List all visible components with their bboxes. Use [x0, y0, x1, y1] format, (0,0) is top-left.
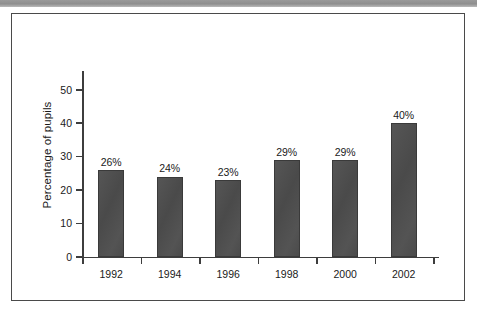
y-axis-tick-50: [76, 89, 83, 91]
x-axis-tick-1: [141, 258, 143, 264]
bar-value-label-1996: 23%: [198, 166, 258, 178]
bar-1996: [215, 180, 241, 257]
x-axis-label-1992: 1992: [81, 268, 141, 280]
y-axis-tick-40: [76, 122, 83, 124]
x-axis-tick-6: [433, 258, 435, 264]
bar-2000: [332, 160, 358, 257]
y-axis-tick-label-20: 20: [40, 184, 72, 196]
figure-frame: Percentage of pupils 0 10 20 30 40 50 26…: [11, 13, 465, 301]
x-axis-label-1994: 1994: [140, 268, 200, 280]
y-axis-tick-label-30: 30: [40, 150, 72, 162]
y-axis-tick-label-50: 50: [40, 84, 72, 96]
bar-value-label-2000: 29%: [315, 146, 375, 158]
bar-1994: [157, 177, 183, 257]
y-axis-tick-20: [76, 189, 83, 191]
x-axis-label-1996: 1996: [198, 268, 258, 280]
y-axis-tick-label-10: 10: [40, 217, 72, 229]
x-axis-label-2000: 2000: [315, 268, 375, 280]
x-axis-tick-3: [258, 258, 260, 264]
x-axis-tick-0: [82, 258, 84, 264]
bar-value-label-2002: 40%: [374, 109, 434, 121]
bar-value-label-1994: 24%: [140, 162, 200, 174]
bar-value-label-1998: 29%: [257, 146, 317, 158]
y-axis-tick-label-0: 0: [40, 251, 72, 263]
y-axis-tick-10: [76, 223, 83, 225]
bar-chart: Percentage of pupils 0 10 20 30 40 50 26…: [12, 14, 466, 302]
bar-2002: [391, 123, 417, 257]
x-axis-tick-4: [316, 258, 318, 264]
x-axis-tick-2: [199, 258, 201, 264]
x-axis-line: [82, 257, 439, 259]
y-axis-tick-label-40: 40: [40, 117, 72, 129]
x-axis-label-1998: 1998: [257, 268, 317, 280]
x-axis-tick-5: [375, 258, 377, 264]
bar-1998: [274, 160, 300, 257]
bar-1992: [98, 170, 124, 257]
scan-artifact-band: [0, 0, 477, 7]
x-axis-label-2002: 2002: [374, 268, 434, 280]
bar-value-label-1992: 26%: [81, 156, 141, 168]
